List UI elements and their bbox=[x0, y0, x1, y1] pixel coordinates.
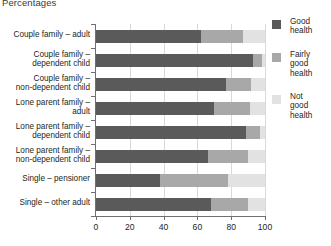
gridline bbox=[265, 24, 266, 216]
bar-segment bbox=[250, 102, 265, 115]
x-axis-tick-label: 20 bbox=[115, 222, 145, 232]
bar-row bbox=[96, 30, 265, 43]
bar-row bbox=[96, 78, 265, 91]
bar-segment bbox=[248, 198, 265, 211]
category-label: Single – other adult bbox=[0, 198, 90, 207]
x-axis-tick bbox=[96, 216, 97, 220]
bar-segment bbox=[228, 174, 265, 187]
x-axis-tick bbox=[197, 216, 198, 220]
x-axis-tick bbox=[265, 216, 266, 220]
legend-label: Fairlygoodhealth bbox=[290, 50, 331, 78]
y-axis-tick bbox=[91, 168, 95, 169]
bar-segment bbox=[211, 198, 248, 211]
bar-segment bbox=[96, 102, 214, 115]
bar-row bbox=[96, 198, 265, 211]
x-axis-tick bbox=[164, 216, 165, 220]
x-axis-tick-label: 0 bbox=[81, 222, 111, 232]
y-axis-tick bbox=[91, 120, 95, 121]
category-label: Lone parent family –dependent child bbox=[0, 122, 90, 141]
x-axis-tick-label: 60 bbox=[182, 222, 212, 232]
x-axis-tick bbox=[231, 216, 232, 220]
bar-row bbox=[96, 126, 265, 139]
bar-segment bbox=[208, 150, 249, 163]
y-axis-tick bbox=[91, 192, 95, 193]
bar-row bbox=[96, 174, 265, 187]
bar-segment bbox=[96, 54, 253, 67]
bar-segment bbox=[226, 78, 251, 91]
y-axis-tick bbox=[91, 48, 95, 49]
y-axis-tick bbox=[91, 72, 95, 73]
x-axis-tick-label: 40 bbox=[149, 222, 179, 232]
bar-segment bbox=[262, 54, 265, 67]
bar-segment bbox=[243, 30, 265, 43]
category-label: Couple family –dependent child bbox=[0, 50, 90, 69]
bar-row bbox=[96, 150, 265, 163]
legend-swatch bbox=[272, 95, 281, 104]
bar-segment bbox=[96, 126, 246, 139]
bar-segment bbox=[251, 78, 265, 91]
stacked-bar-chart: Percentages Couple family – adultCouple … bbox=[0, 0, 331, 246]
bar-segment bbox=[96, 174, 160, 187]
bar-segment bbox=[96, 198, 211, 211]
y-axis-tick bbox=[91, 24, 95, 25]
legend-label: Goodhealth bbox=[290, 17, 331, 36]
x-axis-tick-label: 80 bbox=[216, 222, 246, 232]
chart-title: Percentages bbox=[2, 0, 56, 8]
bar-segment bbox=[201, 30, 243, 43]
bar-row bbox=[96, 54, 265, 67]
category-axis-labels: Couple family – adultCouple family –depe… bbox=[0, 24, 90, 216]
y-axis-tick bbox=[91, 144, 95, 145]
bar-row bbox=[96, 102, 265, 115]
legend-swatch bbox=[272, 53, 281, 62]
category-label: Couple family –non-dependent child bbox=[0, 74, 90, 93]
category-label: Single – pensioner bbox=[0, 174, 90, 183]
bar-segment bbox=[96, 30, 201, 43]
bar-segment bbox=[253, 54, 261, 67]
x-axis-line bbox=[95, 216, 266, 217]
legend-swatch bbox=[272, 20, 281, 29]
bar-segment bbox=[248, 150, 265, 163]
category-label: Lone parent family –non-dependent child bbox=[0, 146, 90, 165]
bar-segment bbox=[96, 150, 208, 163]
category-label: Couple family – adult bbox=[0, 30, 90, 39]
bar-segment bbox=[160, 174, 228, 187]
legend-label: Notgoodhealth bbox=[290, 92, 331, 120]
bar-segment bbox=[246, 126, 260, 139]
x-axis-tick bbox=[130, 216, 131, 220]
bar-segment bbox=[214, 102, 249, 115]
bar-segment bbox=[260, 126, 265, 139]
y-axis-tick bbox=[91, 216, 95, 217]
category-label: Lone parent family –adult bbox=[0, 98, 90, 117]
bar-segment bbox=[96, 78, 226, 91]
plot-area bbox=[96, 24, 265, 216]
y-axis-tick bbox=[91, 96, 95, 97]
x-axis-tick-label: 100 bbox=[250, 222, 280, 232]
